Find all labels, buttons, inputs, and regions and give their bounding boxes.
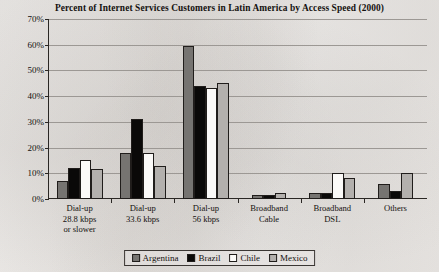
- category-label: Dial-up28.8 kbpsor slower: [48, 203, 111, 245]
- legend-item[interactable]: Mexico: [269, 253, 308, 263]
- category-label-line: Broadband: [301, 203, 364, 214]
- legend-label: Mexico: [280, 253, 308, 263]
- y-axis-tick-label: 60%: [10, 40, 44, 50]
- category-label-line: Cable: [238, 214, 301, 225]
- bar-brazil: [68, 168, 80, 199]
- legend-swatch-icon: [132, 254, 140, 262]
- y-axis-tick-mark: [45, 199, 49, 200]
- category-label-line: 28.8 kbps: [48, 214, 111, 225]
- bar-argentina: [120, 153, 132, 199]
- bar-mexico: [275, 193, 287, 199]
- bar-mexico: [154, 166, 166, 199]
- bar-chile: [332, 173, 344, 199]
- bar-group: [364, 19, 427, 199]
- category-label-line: Dial-up: [111, 203, 174, 214]
- bar-chile: [206, 88, 218, 199]
- bar-group: [238, 19, 301, 199]
- legend-swatch-icon: [269, 254, 277, 262]
- bar-argentina: [183, 46, 195, 199]
- y-axis-tick-label: 10%: [10, 168, 44, 178]
- legend-item[interactable]: Chile: [229, 253, 260, 263]
- category-label: Others: [364, 203, 427, 245]
- category-label-line: Dial-up: [174, 203, 237, 214]
- legend-item[interactable]: Brazil: [187, 253, 220, 263]
- category-label-line: or slower: [48, 224, 111, 235]
- bar-group: [111, 19, 174, 199]
- bar-brazil: [194, 86, 206, 199]
- category-axis-labels: Dial-up28.8 kbpsor slowerDial-up33.6 kbp…: [48, 203, 427, 245]
- bar-mexico: [344, 178, 356, 199]
- plot-area: 0%10%20%30%40%50%60%70%: [48, 19, 427, 199]
- y-axis-tick-label: 20%: [10, 143, 44, 153]
- category-label-line: Dial-up: [48, 203, 111, 214]
- bar-group: [301, 19, 364, 199]
- legend-item[interactable]: Argentina: [132, 253, 179, 263]
- y-axis-tick-label: 50%: [10, 65, 44, 75]
- category-label-line: DSL: [301, 214, 364, 225]
- category-label: BroadbandCable: [238, 203, 301, 245]
- bar-mexico: [91, 169, 103, 199]
- legend-swatch-icon: [229, 254, 237, 262]
- legend-label: Argentina: [143, 253, 179, 263]
- bar-group: [174, 19, 237, 199]
- category-label-line: 56 kbps: [174, 214, 237, 225]
- bar-chile: [143, 153, 155, 199]
- category-label-line: Others: [364, 203, 427, 214]
- bar-argentina: [57, 181, 69, 199]
- legend: ArgentinaBrazilChileMexico: [124, 250, 316, 266]
- chart-page: Percent of Internet Services Customers i…: [0, 0, 439, 272]
- bar-argentina: [309, 193, 321, 199]
- chart-title: Percent of Internet Services Customers i…: [0, 3, 439, 13]
- bar-group: [48, 19, 111, 199]
- bar-argentina: [252, 195, 264, 199]
- bar-chile: [80, 160, 92, 199]
- bar-groups: [48, 19, 427, 199]
- bar-brazil: [390, 191, 402, 199]
- bar-brazil: [263, 195, 275, 199]
- category-label: BroadbandDSL: [301, 203, 364, 245]
- bar-mexico: [401, 173, 413, 199]
- y-axis-tick-label: 0%: [10, 194, 44, 204]
- y-axis-tick-label: 30%: [10, 117, 44, 127]
- category-label: Dial-up33.6 kbps: [111, 203, 174, 245]
- y-axis-tick-label: 40%: [10, 91, 44, 101]
- legend-label: Brazil: [198, 253, 220, 263]
- bar-mexico: [217, 83, 229, 199]
- legend-label: Chile: [240, 253, 260, 263]
- bar-brazil: [321, 193, 333, 199]
- category-label: Dial-up56 kbps: [174, 203, 237, 245]
- bar-argentina: [378, 184, 390, 199]
- y-axis-tick-label: 70%: [10, 14, 44, 24]
- category-label-line: 33.6 kbps: [111, 214, 174, 225]
- bar-brazil: [131, 119, 143, 199]
- legend-swatch-icon: [187, 254, 195, 262]
- category-label-line: Broadband: [238, 203, 301, 214]
